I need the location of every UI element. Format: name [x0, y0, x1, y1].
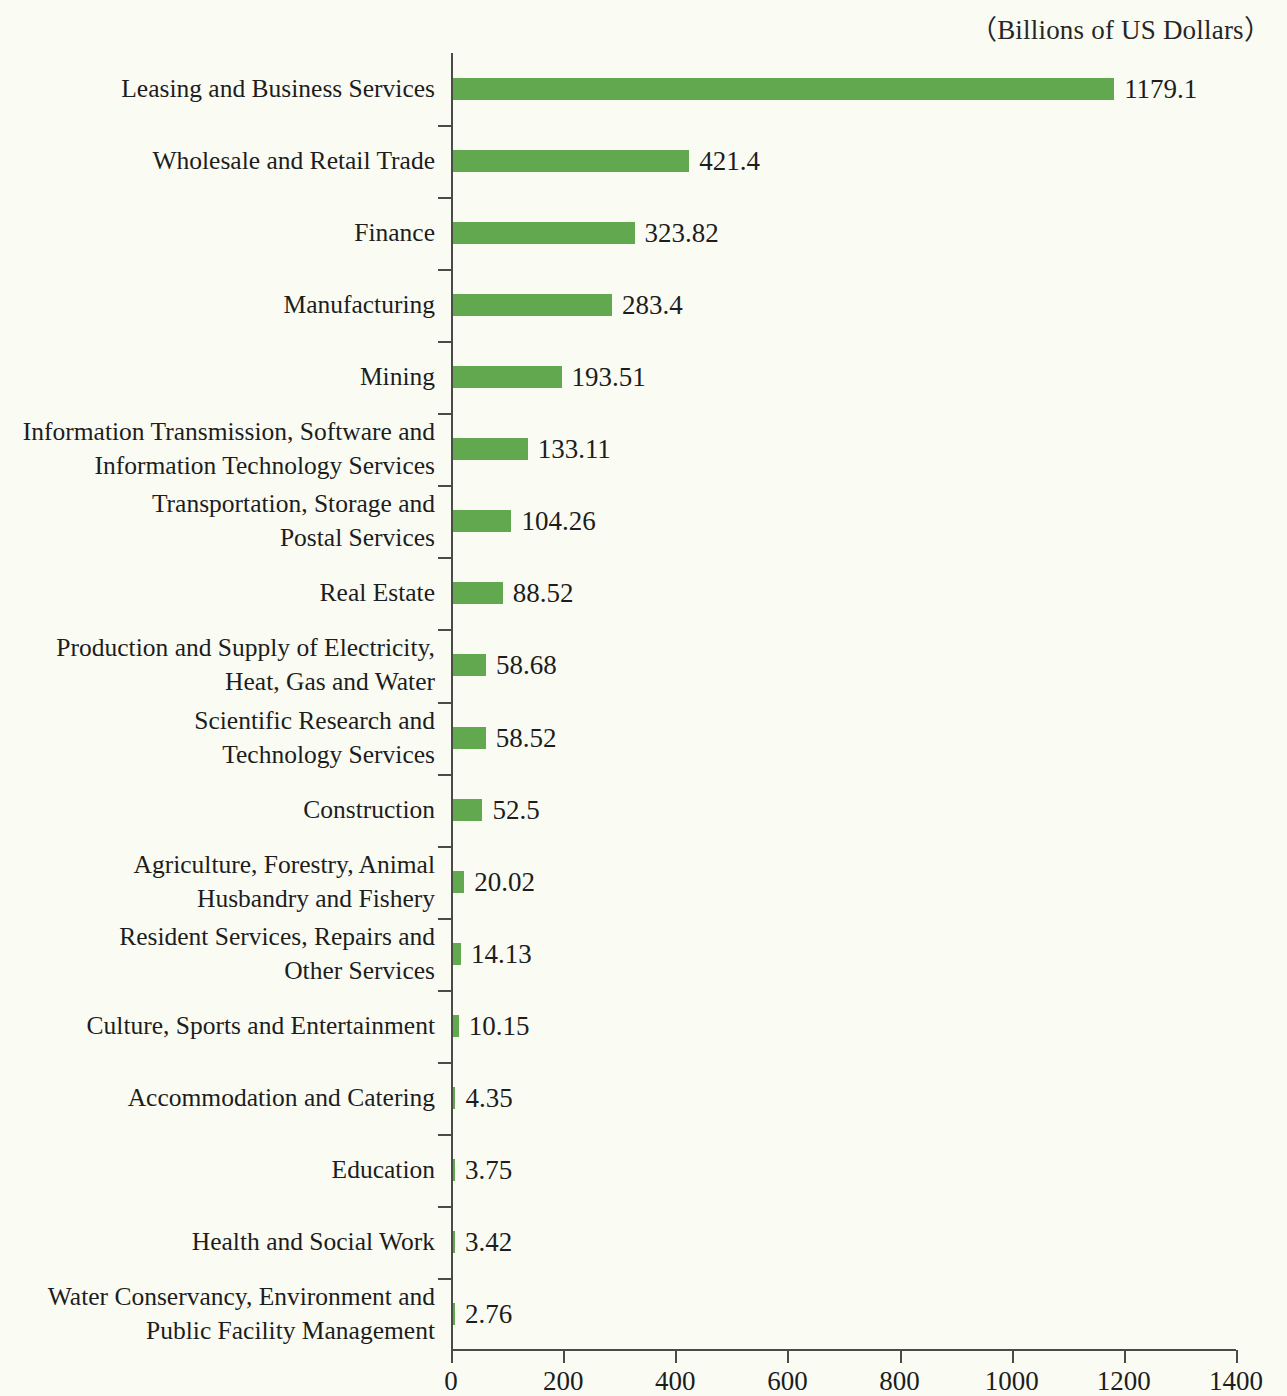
x-axis-tick: [900, 1350, 902, 1363]
bar-value-label: 58.52: [496, 722, 557, 753]
x-axis-tick-label: 1200: [1097, 1366, 1151, 1396]
x-axis-tick: [675, 1350, 677, 1363]
category-label: Production and Supply of Electricity, He…: [21, 631, 451, 699]
bar-row: Production and Supply of Electricity, He…: [0, 629, 1287, 701]
bar-row: Leasing and Business Services1179.1: [0, 53, 1287, 125]
bar: [453, 654, 486, 676]
x-axis-tick-label: 600: [767, 1366, 808, 1396]
category-label: Agriculture, Forestry, Animal Husbandry …: [21, 848, 451, 916]
bar: [453, 871, 464, 893]
bar-value-label: 133.11: [538, 434, 611, 465]
x-axis-tick: [1236, 1350, 1238, 1363]
x-axis-tick-label: 800: [879, 1366, 920, 1396]
bar-row: Health and Social Work3.42: [0, 1206, 1287, 1278]
bar: [453, 366, 562, 388]
category-label: Transportation, Storage and Postal Servi…: [21, 487, 451, 555]
category-label: Water Conservancy, Environment and Publi…: [21, 1280, 451, 1348]
bar: [453, 438, 528, 460]
bar: [453, 1231, 455, 1253]
bar-value-label: 2.76: [465, 1298, 512, 1329]
bar-row: Scientific Research and Technology Servi…: [0, 702, 1287, 774]
bar-chart: （Billions of US Dollars） 020040060080010…: [0, 0, 1287, 1396]
bar: [453, 1087, 455, 1109]
bar-row: Resident Services, Repairs and Other Ser…: [0, 918, 1287, 990]
bar: [453, 222, 635, 244]
bar-row: Finance323.82: [0, 197, 1287, 269]
bar: [453, 1159, 455, 1181]
bar-row: Real Estate88.52: [0, 557, 1287, 629]
x-axis-tick-label: 200: [543, 1366, 584, 1396]
bar-value-label: 104.26: [521, 506, 595, 537]
bar-value-label: 14.13: [471, 938, 532, 969]
x-axis-tick-label: 1400: [1209, 1366, 1263, 1396]
x-axis-tick: [787, 1350, 789, 1363]
x-axis-tick: [1124, 1350, 1126, 1363]
bar: [453, 943, 461, 965]
bar-value-label: 323.82: [645, 218, 719, 249]
bar-row: Mining193.51: [0, 341, 1287, 413]
category-label: Accommodation and Catering: [21, 1081, 451, 1115]
category-label: Finance: [21, 216, 451, 250]
bar: [453, 582, 503, 604]
category-label: Information Transmission, Software and I…: [21, 415, 451, 483]
category-label: Construction: [21, 793, 451, 827]
bar-value-label: 421.4: [699, 146, 760, 177]
bar-row: Agriculture, Forestry, Animal Husbandry …: [0, 846, 1287, 918]
bar: [453, 294, 612, 316]
category-label: Resident Services, Repairs and Other Ser…: [21, 920, 451, 988]
bar-value-label: 10.15: [469, 1010, 530, 1041]
bar: [453, 1015, 459, 1037]
bar-row: Water Conservancy, Environment and Publi…: [0, 1278, 1287, 1350]
bar: [453, 1303, 455, 1325]
bar-value-label: 58.68: [496, 650, 557, 681]
x-axis-tick: [563, 1350, 565, 1363]
bar-value-label: 4.35: [465, 1082, 512, 1113]
category-label: Health and Social Work: [21, 1225, 451, 1259]
bar-row: Construction52.5: [0, 774, 1287, 846]
bar: [453, 150, 689, 172]
category-label: Leasing and Business Services: [21, 72, 451, 106]
bar-value-label: 283.4: [622, 290, 683, 321]
bar-value-label: 52.5: [492, 794, 539, 825]
category-label: Manufacturing: [21, 288, 451, 322]
bar-row: Wholesale and Retail Trade421.4: [0, 125, 1287, 197]
bar-value-label: 3.75: [465, 1154, 512, 1185]
category-label: Education: [21, 1153, 451, 1187]
bar: [453, 510, 511, 532]
bar-value-label: 20.02: [474, 866, 535, 897]
x-axis-tick-label: 0: [444, 1366, 458, 1396]
x-axis-tick-label: 1000: [985, 1366, 1039, 1396]
category-label: Culture, Sports and Entertainment: [21, 1009, 451, 1043]
bar-value-label: 88.52: [513, 578, 574, 609]
bar-row: Culture, Sports and Entertainment10.15: [0, 990, 1287, 1062]
bar: [453, 727, 486, 749]
bar-row: Information Transmission, Software and I…: [0, 413, 1287, 485]
category-label: Scientific Research and Technology Servi…: [21, 704, 451, 772]
chart-unit-title: （Billions of US Dollars）: [970, 8, 1271, 47]
bar-value-label: 193.51: [572, 362, 646, 393]
bar: [453, 799, 482, 821]
bar-value-label: 1179.1: [1124, 74, 1197, 105]
bar-row: Transportation, Storage and Postal Servi…: [0, 485, 1287, 557]
bar: [453, 78, 1114, 100]
bar-row: Accommodation and Catering4.35: [0, 1062, 1287, 1134]
x-axis-tick: [451, 1350, 453, 1363]
bar-row: Education3.75: [0, 1134, 1287, 1206]
bar-value-label: 3.42: [465, 1226, 512, 1257]
x-axis-tick: [1012, 1350, 1014, 1363]
category-label: Real Estate: [21, 576, 451, 610]
category-label: Wholesale and Retail Trade: [21, 144, 451, 178]
category-label: Mining: [21, 360, 451, 394]
bar-row: Manufacturing283.4: [0, 269, 1287, 341]
x-axis-tick-label: 400: [655, 1366, 696, 1396]
